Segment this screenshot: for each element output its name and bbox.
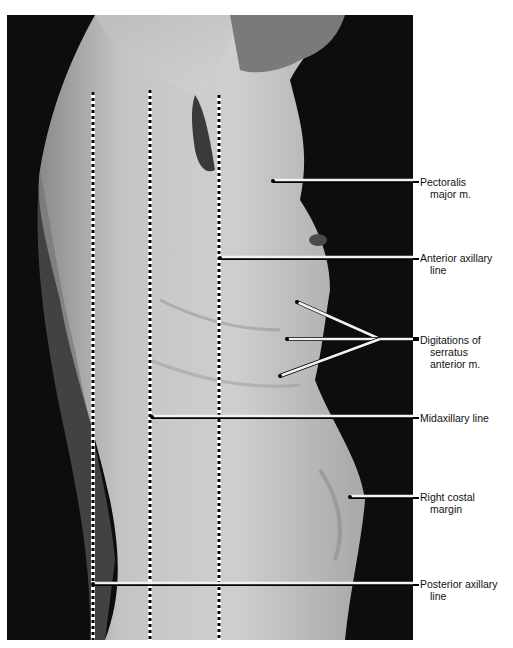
serratus-pointers bbox=[278, 300, 419, 378]
pectoralis-pointer bbox=[271, 179, 419, 183]
label-midaxillary-line1: Midaxillary line bbox=[420, 412, 489, 424]
anterior-axillary-pointer bbox=[218, 256, 419, 260]
label-costal-margin: Right costal margin bbox=[420, 491, 475, 515]
label-pectoralis-line2: major m. bbox=[420, 188, 471, 200]
label-costal-margin-line2: margin bbox=[420, 503, 475, 515]
label-serratus-line1: Digitations of bbox=[420, 334, 481, 346]
label-serratus: Digitations of serratus anterior m. bbox=[420, 334, 481, 370]
label-anterior-axillary: Anterior axillary line bbox=[420, 252, 492, 276]
label-serratus-line2: serratus bbox=[420, 346, 481, 358]
label-anterior-axillary-line2: line bbox=[420, 264, 492, 276]
label-posterior-axillary-line2: line bbox=[420, 590, 498, 602]
overlay-lines bbox=[0, 0, 513, 648]
costal-margin-pointer bbox=[348, 495, 419, 499]
label-posterior-axillary: Posterior axillary line bbox=[420, 578, 498, 602]
midaxillary-pointer bbox=[150, 415, 419, 419]
posterior-axillary-pointer bbox=[91, 582, 419, 586]
label-anterior-axillary-line1: Anterior axillary bbox=[420, 252, 492, 264]
label-pectoralis: Pectoralis major m. bbox=[420, 176, 471, 200]
label-midaxillary: Midaxillary line bbox=[420, 412, 489, 424]
label-serratus-line3: anterior m. bbox=[420, 358, 481, 370]
anatomy-figure: Pectoralis major m. Anterior axillary li… bbox=[0, 0, 513, 648]
label-pectoralis-line1: Pectoralis bbox=[420, 176, 466, 188]
label-posterior-axillary-line1: Posterior axillary bbox=[420, 578, 498, 590]
label-costal-margin-line1: Right costal bbox=[420, 491, 475, 503]
